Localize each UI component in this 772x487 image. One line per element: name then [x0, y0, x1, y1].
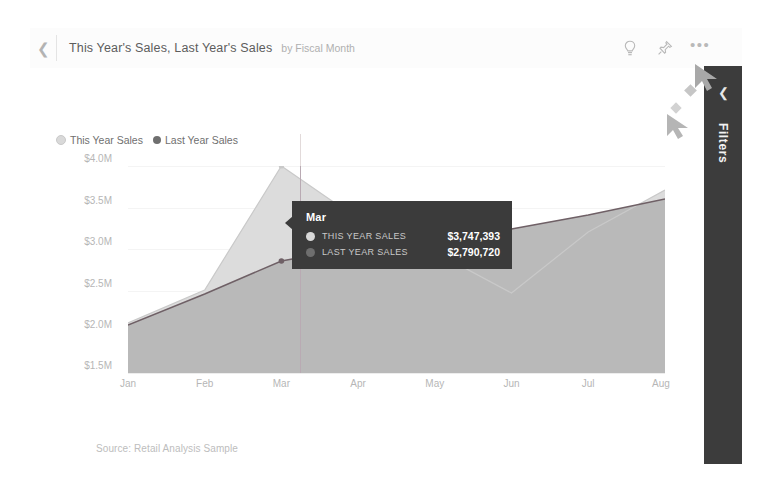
tooltip-swatch-icon [306, 248, 315, 257]
mouse-cursor-icon [693, 62, 719, 96]
legend-label: Last Year Sales [165, 134, 238, 146]
tooltip-row: THIS YEAR SALES $3,747,393 [306, 230, 500, 242]
more-options-icon[interactable]: ••• [691, 36, 709, 61]
legend-label: This Year Sales [70, 134, 143, 146]
visual-header: ❮ This Year's Sales, Last Year's Sales b… [30, 28, 742, 68]
x-axis-tick: Feb [196, 378, 213, 389]
tooltip-row: LAST YEAR SALES $2,790,720 [306, 246, 500, 258]
y-axis-tick: $3.5M [84, 195, 112, 206]
tooltip-series-name: THIS YEAR SALES [322, 231, 439, 241]
tooltip-swatch-icon [306, 232, 315, 241]
filters-panel-collapsed[interactable]: ❮ Filters [704, 66, 742, 464]
area-chart-visual[interactable]: This Year Sales Last Year Sales $4.0M $3… [30, 68, 742, 429]
x-axis-tick: Jun [503, 378, 519, 389]
tooltip-title: Mar [306, 211, 500, 223]
y-axis-tick: $3.0M [84, 236, 112, 247]
header-divider [56, 35, 57, 61]
tooltip-series-value: $2,790,720 [447, 246, 500, 258]
x-axis-tick: May [425, 378, 444, 389]
x-axis: Jan Feb Mar Apr May Jun Jul Aug [128, 378, 665, 396]
x-axis-tick: Apr [350, 378, 366, 389]
legend-item-this-year-sales[interactable]: This Year Sales [56, 134, 143, 146]
page-title: This Year's Sales, Last Year's Sales [69, 41, 272, 55]
x-axis-tick: Jul [582, 378, 595, 389]
legend-swatch-icon [153, 136, 161, 144]
tooltip-series-value: $3,747,393 [447, 230, 500, 242]
x-axis-tick: Aug [652, 378, 670, 389]
pin-icon[interactable] [656, 39, 674, 57]
x-axis-tick: Mar [273, 378, 290, 389]
insights-lightbulb-icon[interactable] [621, 39, 639, 57]
chart-tooltip: Mar THIS YEAR SALES $3,747,393 LAST YEAR… [292, 201, 512, 269]
y-axis: $4.0M $3.5M $3.0M $2.5M $2.0M $1.5M [52, 158, 120, 386]
mouse-cursor-icon [665, 112, 691, 144]
y-axis-tick: $2.0M [84, 319, 112, 330]
y-axis-tick: $2.5M [84, 278, 112, 289]
legend-item-last-year-sales[interactable]: Last Year Sales [153, 134, 238, 146]
chevron-left-icon[interactable]: ❮ [718, 86, 729, 99]
plot-area[interactable] [128, 166, 665, 373]
x-axis-line [128, 373, 665, 374]
x-axis-tick: Jan [120, 378, 136, 389]
data-point-marker-last-year [279, 258, 285, 264]
hover-guide-line-upper [300, 134, 301, 166]
legend-swatch-icon [56, 135, 66, 145]
chart-legend: This Year Sales Last Year Sales [56, 134, 238, 146]
y-axis-tick: $4.0M [84, 153, 112, 164]
chevron-left-icon[interactable]: ❮ [30, 41, 56, 56]
visual-header-actions: ••• [621, 36, 742, 61]
source-caption: Source: Retail Analysis Sample [96, 443, 238, 454]
visual-subtitle: by Fiscal Month [281, 42, 355, 54]
y-axis-tick: $1.5M [84, 360, 112, 371]
hover-guide-line [300, 166, 301, 373]
tooltip-series-name: LAST YEAR SALES [322, 247, 439, 257]
filters-panel-label: Filters [716, 123, 730, 163]
report-canvas: ❮ This Year's Sales, Last Year's Sales b… [0, 0, 772, 487]
